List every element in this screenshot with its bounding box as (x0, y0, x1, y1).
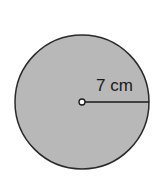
center-point (79, 99, 85, 105)
circle-diagram (0, 0, 166, 190)
radius-label: 7 cm (96, 76, 133, 96)
